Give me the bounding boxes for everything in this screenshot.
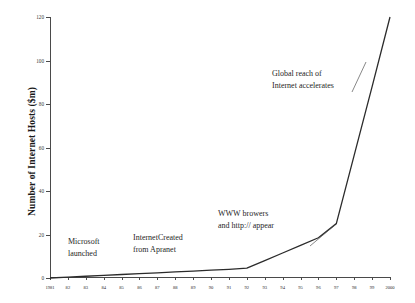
x-tick-label: 1981 <box>45 285 54 290</box>
x-tick-label: 97 <box>334 285 339 290</box>
internet-hosts-line-chart: Number of Internet Hosts ($m) 0204060801… <box>0 0 415 303</box>
y-tick-label: 100 <box>36 58 44 64</box>
y-tick-label: 0 <box>41 275 44 281</box>
x-tick-label: 91 <box>227 285 232 290</box>
annotation-www-browsers: WWW browers and http:// appear <box>218 208 274 231</box>
x-tick-label: 85 <box>119 285 124 290</box>
y-tick-label: 60 <box>39 145 44 151</box>
y-tick-label: 120 <box>36 14 44 20</box>
y-axis-title: Number of Internet Hosts ($m) <box>22 0 42 303</box>
x-tick-label: 84 <box>101 285 106 290</box>
x-tick-label: 93 <box>262 285 267 290</box>
y-tick-label: 40 <box>39 188 44 194</box>
x-tick-label: 96 <box>316 285 321 290</box>
x-tick-label: 2000 <box>385 285 394 290</box>
x-tick-label: 88 <box>173 285 178 290</box>
x-tick-label: 87 <box>155 285 160 290</box>
plot-area: 020406080100120 198182838485868788899091… <box>50 17 390 278</box>
x-tick-label: 94 <box>280 285 285 290</box>
x-tick-label: 86 <box>137 285 142 290</box>
y-tick-label: 20 <box>39 232 44 238</box>
annotation-microsoft-launched: Microsoft launched <box>68 236 100 259</box>
x-tick-label: 95 <box>298 285 303 290</box>
x-tick-label: 99 <box>370 285 375 290</box>
y-tick-label: 80 <box>39 101 44 107</box>
x-tick-label: 92 <box>245 285 250 290</box>
x-tick-label: 82 <box>66 285 71 290</box>
data-series-line <box>50 17 390 278</box>
x-tick <box>390 277 391 280</box>
annotation-internet-created: InternetCreated from Apranet <box>133 232 183 255</box>
x-tick-label: 98 <box>352 285 357 290</box>
x-tick-label: 90 <box>209 285 214 290</box>
x-tick-label: 83 <box>83 285 88 290</box>
x-tick-label: 89 <box>191 285 196 290</box>
annotation-global-reach: Global reach of Internet accelerates <box>272 68 334 91</box>
